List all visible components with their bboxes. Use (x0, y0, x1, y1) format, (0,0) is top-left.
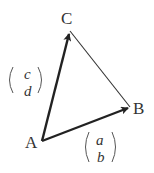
diagram-canvas: C B A c d a b (0, 0, 154, 173)
column-vector-cd: c d (10, 66, 42, 99)
edge-c-b (70, 31, 130, 107)
label-point-a: A (25, 133, 38, 152)
label-point-c: C (61, 9, 72, 28)
vector-triangle-diagram: C B A c d a b (0, 0, 154, 173)
vector-component-b: b (97, 149, 105, 165)
vector-component-a: a (96, 132, 104, 148)
left-paren-icon (86, 132, 90, 162)
vector-component-d: d (24, 83, 32, 99)
vector-a-c (42, 34, 69, 141)
left-paren-icon (10, 67, 14, 93)
column-vector-ab: a b (86, 132, 116, 165)
right-paren-icon (112, 132, 116, 162)
vector-a-b (42, 108, 128, 141)
label-point-b: B (133, 99, 144, 118)
vector-component-c: c (24, 66, 31, 82)
right-paren-icon (38, 67, 42, 93)
